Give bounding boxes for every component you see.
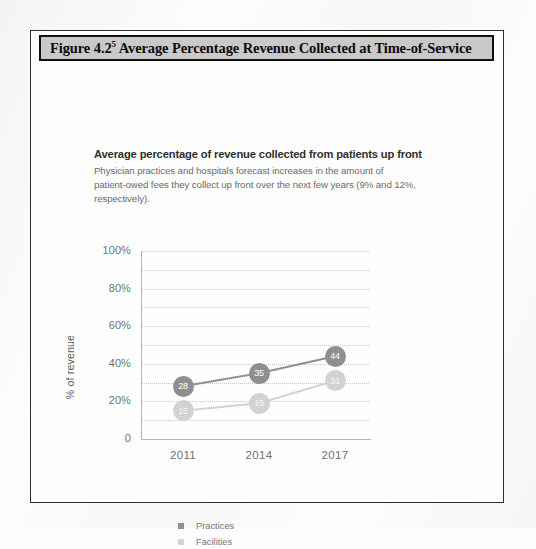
x-tick-label: 2011 [153, 449, 213, 461]
legend-label: Facilities [196, 537, 232, 547]
y-tick-label: 100% [79, 244, 131, 256]
data-point-practices-2017: 44 [325, 346, 346, 367]
figure-title-text: Average Percentage Revenue Collected at … [119, 40, 472, 56]
legend-swatch-icon [178, 539, 184, 545]
y-tick-label: 0 [79, 432, 131, 444]
figure-title-bar: Figure 4.25 Average Percentage Revenue C… [39, 35, 494, 61]
figure-number: Figure 4.2 [50, 40, 112, 56]
x-tick-label: 2017 [305, 449, 365, 461]
figure-title: Figure 4.25 Average Percentage Revenue C… [50, 39, 472, 57]
data-point-facilities-2014: 19 [249, 393, 270, 414]
data-point-facilities-2017: 31 [325, 370, 346, 391]
y-tick-label: 60% [79, 319, 131, 331]
legend-item-practices: Practices [178, 519, 234, 532]
figure-footnote-marker: 5 [112, 39, 116, 49]
legend-swatch-icon [178, 523, 184, 529]
y-tick-label: 20% [79, 394, 131, 406]
x-tick-label: 2014 [229, 449, 289, 461]
chart-card: Average percentage of revenue collected … [31, 71, 502, 501]
plot-wrapper: % of revenue 020%40%60%80%100% 201120142… [31, 71, 502, 501]
chart-legend: PracticesFacilities [178, 519, 234, 549]
y-tick-label: 80% [79, 282, 131, 294]
y-tick-label: 40% [79, 357, 131, 369]
legend-label: Practices [196, 521, 234, 531]
data-point-facilities-2011: 15 [173, 400, 194, 421]
data-point-practices-2014: 35 [249, 363, 270, 384]
legend-item-facilities: Facilities [178, 535, 234, 548]
data-point-practices-2011: 28 [173, 376, 194, 397]
figure-frame: Figure 4.25 Average Percentage Revenue C… [30, 30, 504, 503]
y-axis-title: % of revenue [64, 307, 76, 427]
